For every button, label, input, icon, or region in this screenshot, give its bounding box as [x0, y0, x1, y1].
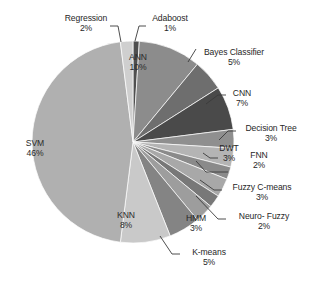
label-hmm-name: HMM	[186, 213, 206, 223]
label-kmeans: K-means 5%	[178, 247, 240, 267]
label-adaboost: Adaboost 1%	[142, 13, 198, 33]
label-decision-tree-pct: 3%	[232, 133, 310, 143]
label-regression-pct: 2%	[56, 23, 116, 33]
label-bayes-classifier-name: Bayes Classifier	[204, 47, 264, 57]
label-hmm: HMM 3%	[176, 213, 216, 233]
label-fnn-pct: 2%	[243, 160, 275, 170]
label-neuro-fuzzy-name: Neuro- Fuzzy	[239, 211, 289, 221]
label-bayes-classifier-pct: 5%	[192, 57, 276, 67]
label-svm-name: SVM	[26, 138, 44, 148]
label-knn-pct: 8%	[105, 220, 147, 230]
label-dwt: DWT 3%	[213, 143, 245, 163]
label-adaboost-name: Adaboost	[152, 13, 188, 23]
label-regression: Regression 2%	[56, 13, 116, 33]
label-ann: ANN 10%	[116, 52, 160, 72]
label-fnn: FNN 2%	[243, 150, 275, 170]
label-fuzzy-cmeans-pct: 3%	[218, 192, 306, 202]
label-bayes-classifier: Bayes Classifier 5%	[192, 47, 276, 67]
label-dwt-name: DWT	[219, 143, 238, 153]
label-hmm-pct: 3%	[176, 223, 216, 233]
label-decision-tree-name: Decision Tree	[245, 123, 296, 133]
label-adaboost-pct: 1%	[142, 23, 198, 33]
label-neuro-fuzzy: Neuro- Fuzzy 2%	[222, 211, 306, 231]
label-fuzzy-cmeans: Fuzzy C-means 3%	[218, 182, 306, 202]
pie-chart-figure: Regression 2% Adaboost 1% ANN 10% Bayes …	[0, 0, 311, 287]
label-fnn-name: FNN	[250, 150, 267, 160]
label-kmeans-name: K-means	[192, 247, 226, 257]
label-cnn: CNN 7%	[222, 88, 262, 108]
label-knn: KNN 8%	[105, 210, 147, 230]
label-neuro-fuzzy-pct: 2%	[222, 221, 306, 231]
label-regression-name: Regression	[65, 13, 107, 23]
label-fuzzy-cmeans-name: Fuzzy C-means	[233, 182, 292, 192]
label-ann-pct: 10%	[116, 62, 160, 72]
label-dwt-pct: 3%	[213, 153, 245, 163]
label-kmeans-pct: 5%	[178, 257, 240, 267]
label-ann-name: ANN	[129, 52, 147, 62]
label-cnn-name: CNN	[233, 88, 251, 98]
label-knn-name: KNN	[117, 210, 135, 220]
label-svm-pct: 46%	[13, 148, 57, 158]
label-svm: SVM 46%	[13, 138, 57, 158]
label-decision-tree: Decision Tree 3%	[232, 123, 310, 143]
label-cnn-pct: 7%	[222, 98, 262, 108]
